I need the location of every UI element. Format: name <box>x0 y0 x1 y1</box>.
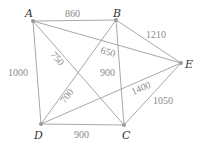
weight-D-C: 900 <box>74 129 89 140</box>
node-label-E: E <box>184 58 193 71</box>
edge-A-B <box>33 20 116 21</box>
edge-B-C <box>116 20 124 125</box>
weight-C-E: 1050 <box>153 95 173 106</box>
edge-A-D <box>33 21 41 124</box>
edge-B-E <box>116 20 181 63</box>
weight-D-E: 1400 <box>129 79 152 97</box>
node-label-B: B <box>112 7 121 20</box>
node-label-D: D <box>33 129 43 142</box>
weight-B-C: 900 <box>100 67 115 78</box>
weight-B-D: 700 <box>58 87 76 106</box>
edge-D-C <box>41 124 124 125</box>
weight-A-B: 860 <box>65 8 80 19</box>
node-E <box>179 61 183 65</box>
weight-A-E: 650 <box>99 44 116 59</box>
weight-B-E: 1210 <box>146 29 166 40</box>
node-D <box>39 122 43 126</box>
node-C <box>122 123 126 127</box>
weighted-graph: A B E D C 860 1210 650 1000 750 900 700 … <box>0 0 204 145</box>
weight-A-D: 1000 <box>8 67 28 78</box>
weight-A-C: 750 <box>48 49 66 68</box>
node-label-C: C <box>122 129 131 142</box>
node-label-A: A <box>24 7 33 20</box>
